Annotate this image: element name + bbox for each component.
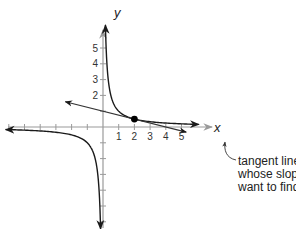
tangency-point <box>131 116 138 123</box>
labels: 123452345xy <box>92 5 221 142</box>
y-tick-label-4: 4 <box>92 58 98 69</box>
y-axis-label: y <box>113 5 122 20</box>
y-tick-label-2: 2 <box>92 90 98 101</box>
x-tick-label-1: 1 <box>116 131 122 142</box>
tangent-line-diagram: 123452345xy <box>0 0 296 229</box>
x-tick-label-5: 5 <box>179 131 185 142</box>
x-tick-label-3: 3 <box>147 131 153 142</box>
x-tick-label-2: 2 <box>132 131 138 142</box>
x-axis-label: x <box>213 120 221 135</box>
tangent-callout: tangent line whose slope we want to find <box>238 155 296 194</box>
callout-arrow <box>225 142 236 160</box>
x-tick-label-4: 4 <box>163 131 169 142</box>
curve-left-branch <box>6 130 101 229</box>
curve-right-branch <box>105 25 198 124</box>
y-tick-label-5: 5 <box>92 43 98 54</box>
callout-line-3: want to find <box>238 181 296 194</box>
y-tick-label-3: 3 <box>92 74 98 85</box>
